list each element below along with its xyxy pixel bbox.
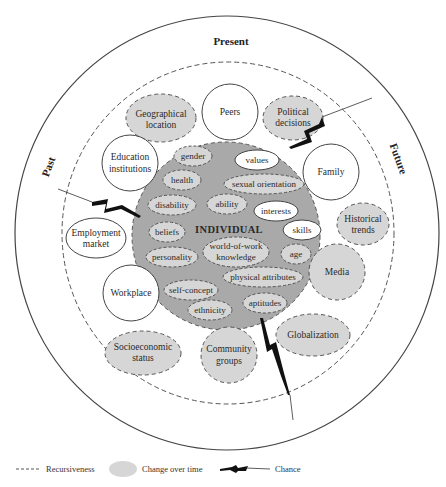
svg-text:groups: groups — [216, 356, 242, 366]
svg-text:Media: Media — [325, 267, 350, 277]
svg-text:skills: skills — [292, 225, 312, 235]
svg-text:physical attributes: physical attributes — [230, 272, 296, 282]
svg-text:Family: Family — [318, 167, 345, 177]
influence-age: age — [281, 244, 311, 264]
svg-text:Globalization: Globalization — [287, 330, 339, 340]
svg-text:interests: interests — [261, 206, 291, 216]
svg-text:market: market — [83, 239, 110, 249]
influence-interests: interests — [254, 201, 298, 221]
context-globalization: Globalization — [276, 314, 350, 356]
context-political-decisions: Political decisions — [263, 96, 323, 140]
svg-text:health: health — [171, 175, 193, 185]
individual-label: INDIVIDUAL — [195, 224, 263, 235]
legend-change-over-time: Change over time — [142, 464, 203, 474]
context-socioeconomic-status: Socioeconomic status — [105, 331, 181, 375]
context-peers: Peers — [202, 84, 258, 140]
svg-text:status: status — [132, 353, 154, 363]
context-community-groups: Community groups — [201, 327, 257, 383]
svg-text:Employment: Employment — [71, 228, 120, 238]
svg-text:sexual orientation: sexual orientation — [232, 179, 297, 189]
influence-aptitudes: aptitudes — [243, 293, 287, 313]
svg-text:trends: trends — [351, 225, 375, 235]
influence-skills: skills — [283, 220, 321, 240]
influence-world-of-work-knowledge: world-of-work knowledge — [203, 237, 269, 267]
era-present-label: Present — [213, 35, 249, 47]
chance-legend-bolt-icon — [220, 465, 270, 473]
svg-text:Historical: Historical — [344, 214, 382, 224]
influence-physical-attributes: physical attributes — [223, 267, 303, 287]
svg-text:personality: personality — [152, 252, 192, 262]
change-legend-swatch — [109, 461, 137, 477]
influence-ability: ability — [207, 194, 247, 214]
influence-beliefs: beliefs — [149, 222, 185, 242]
context-education-institutions: Education institutions — [102, 135, 158, 191]
influence-values: values — [235, 150, 279, 170]
svg-text:beliefs: beliefs — [155, 227, 179, 237]
influence-gender: gender — [174, 146, 212, 166]
svg-text:world-of-work: world-of-work — [210, 241, 263, 251]
context-media: Media — [309, 244, 365, 300]
svg-text:ethnicity: ethnicity — [194, 305, 226, 315]
influence-self-concept: self-concept — [164, 280, 218, 300]
svg-text:Community: Community — [206, 344, 252, 354]
svg-text:Workplace: Workplace — [111, 288, 152, 298]
svg-text:institutions: institutions — [109, 164, 152, 174]
svg-text:aptitudes: aptitudes — [249, 298, 282, 308]
svg-text:values: values — [246, 155, 269, 165]
svg-text:location: location — [146, 120, 177, 130]
context-historical-trends: Historical trends — [337, 203, 389, 245]
era-past-label: Past — [39, 155, 57, 178]
context-workplace: Workplace — [103, 265, 159, 321]
svg-text:gender: gender — [181, 151, 206, 161]
svg-text:Political: Political — [277, 107, 309, 117]
svg-text:knowledge: knowledge — [216, 252, 256, 262]
context-geographical-location: Geographical location — [126, 94, 196, 142]
svg-text:decisions: decisions — [275, 118, 311, 128]
svg-text:Socioeconomic: Socioeconomic — [114, 342, 173, 352]
svg-text:age: age — [290, 249, 303, 259]
legend-chance: Chance — [275, 464, 301, 474]
era-future-label: Future — [388, 141, 410, 175]
influence-health: health — [163, 170, 201, 190]
influence-personality: personality — [146, 247, 198, 267]
svg-text:Education: Education — [111, 152, 150, 162]
influence-ethnicity: ethnicity — [188, 300, 232, 320]
context-family: Family — [303, 144, 359, 200]
svg-text:Peers: Peers — [220, 107, 241, 117]
svg-text:self-concept: self-concept — [169, 285, 213, 295]
context-employment-market: Employment market — [66, 218, 126, 258]
legend: Recursiveness Change over time Chance — [16, 461, 301, 477]
influence-sexual-orientation: sexual orientation — [224, 174, 304, 194]
influence-disability: disability — [148, 195, 196, 215]
svg-text:ability: ability — [216, 199, 239, 209]
svg-text:disability: disability — [155, 200, 189, 210]
legend-recursiveness: Recursiveness — [46, 464, 95, 474]
systems-diagram: Present Past Future Geographical locatio… — [0, 0, 446, 487]
chance-bolt-left-icon — [58, 189, 141, 218]
svg-text:Geographical: Geographical — [135, 109, 187, 119]
